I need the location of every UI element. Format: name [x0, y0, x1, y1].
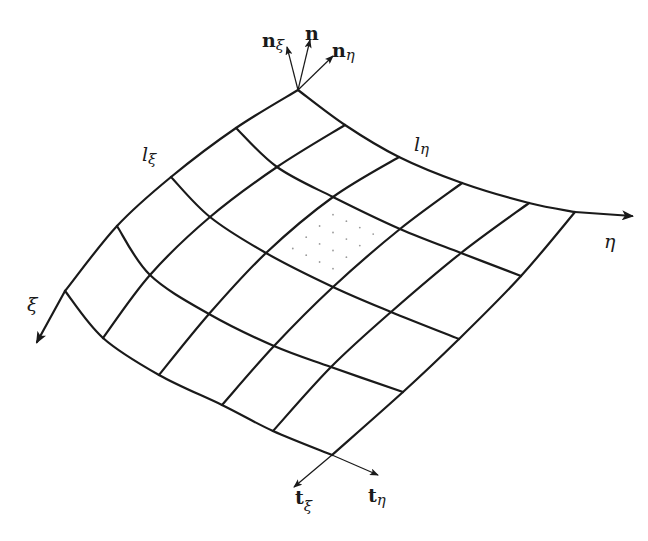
- tangent-vector-t-eta: [332, 455, 378, 475]
- eta-line-3: [117, 226, 403, 392]
- eta-line-4: [65, 291, 332, 455]
- label-eta-axis: η: [604, 232, 615, 251]
- label-xi-axis: ξ: [27, 295, 37, 314]
- normal-vector-n-eta: [298, 56, 333, 90]
- cell-dot: [372, 233, 374, 235]
- cell-dot: [346, 238, 348, 240]
- cell-dot: [319, 261, 321, 263]
- label-t-xi: tξ: [295, 488, 312, 507]
- cell-dot: [332, 232, 334, 234]
- label-t-eta: tη: [368, 486, 386, 505]
- tangent-vector-t-xi: [294, 455, 332, 487]
- cell-dot: [346, 256, 348, 258]
- eta-axis-arrow: [575, 212, 632, 216]
- cell-dot: [332, 268, 334, 270]
- surface-mesh-diagram: [0, 0, 648, 541]
- cell-dot: [292, 248, 294, 250]
- label-n-xi: nξ: [262, 31, 284, 50]
- cell-dot: [346, 220, 348, 222]
- cell-dot: [305, 254, 307, 256]
- label-n-eta: nη: [332, 41, 355, 60]
- label-l-eta: lη: [414, 135, 429, 154]
- cell-dot: [332, 214, 334, 216]
- xi-line-5: [332, 212, 575, 455]
- eta-line-2: [171, 177, 459, 339]
- label-n: n: [305, 24, 319, 43]
- cell-dot: [305, 236, 307, 238]
- normal-vector-n-xi: [287, 47, 298, 90]
- cell-dot: [332, 250, 334, 252]
- vector-arrows: [287, 40, 378, 487]
- eta-line-1: [236, 128, 521, 276]
- axis-arrows: [37, 212, 632, 342]
- xi-axis-arrow: [37, 291, 65, 342]
- cell-dot: [359, 227, 361, 229]
- cell-dot: [319, 243, 321, 245]
- xi-line-0: [65, 90, 298, 291]
- label-l-xi: lξ: [142, 145, 156, 164]
- cell-dot: [319, 225, 321, 227]
- xi-line-1: [103, 125, 345, 338]
- normal-vector-n: [298, 40, 310, 90]
- cell-dot: [359, 245, 361, 247]
